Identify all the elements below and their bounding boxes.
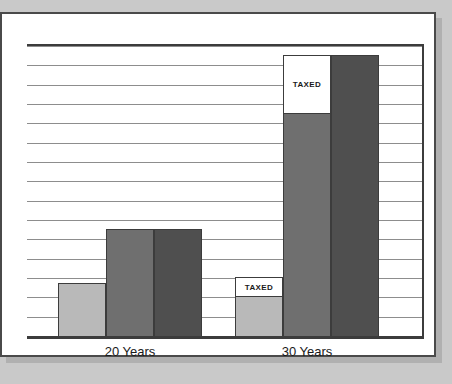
bar-30y-medium-taxed-label: TAXED: [293, 80, 322, 89]
bar-30y-light-fill: [236, 297, 282, 336]
gridline: [27, 46, 424, 47]
chart-panel: TAXEDTAXED 20 Years 30 Years: [0, 12, 436, 357]
bar-30y-medium: TAXED: [283, 55, 331, 337]
bar-20y-medium: [106, 229, 154, 337]
bar-30y-dark: [331, 55, 379, 337]
plot-area: TAXEDTAXED: [27, 44, 424, 339]
bar-30y-medium-fill: [284, 114, 330, 336]
chart-figure: TAXEDTAXED 20 Years 30 Years: [0, 0, 452, 384]
x-tick-label-30-years: 30 Years: [247, 344, 367, 359]
bar-30y-light-taxed-label: TAXED: [245, 283, 274, 292]
bar-20y-dark-fill: [155, 230, 201, 336]
axis-bottom-line: [27, 336, 424, 339]
bar-20y-light-fill: [59, 284, 105, 336]
bar-30y-light-taxed-segment: TAXED: [236, 278, 282, 297]
bar-30y-dark-fill: [332, 56, 378, 336]
bar-20y-medium-fill: [107, 230, 153, 336]
x-tick-label-20-years: 20 Years: [70, 344, 190, 359]
axis-top-line: [27, 44, 424, 46]
bar-20y-dark: [154, 229, 202, 337]
axis-right-line: [422, 44, 424, 339]
bar-30y-light: TAXED: [235, 277, 283, 337]
panel-shadow-right: [436, 18, 442, 363]
bar-30y-medium-taxed-segment: TAXED: [284, 56, 330, 114]
bar-20y-light: [58, 283, 106, 337]
plot-inner: TAXEDTAXED: [27, 44, 424, 339]
